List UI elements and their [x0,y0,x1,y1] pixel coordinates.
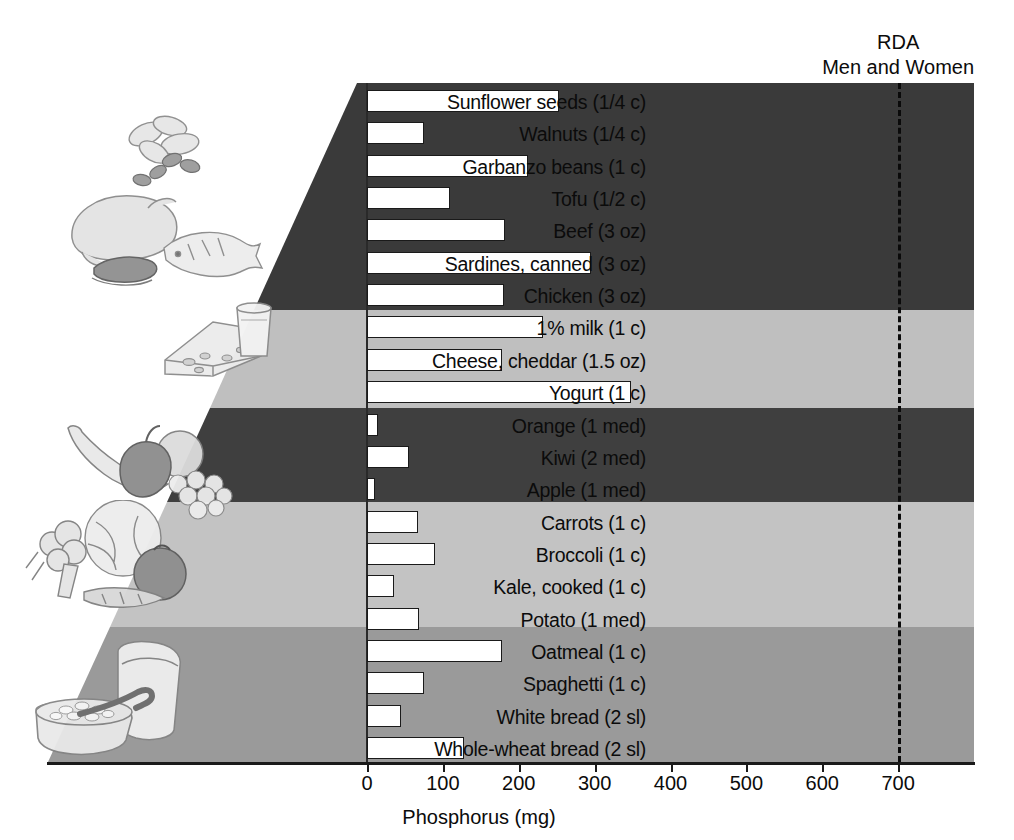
poultry-fish-meat-illustration [52,182,267,287]
bar-kale-cooked-1-c [367,575,394,597]
x-tick-100 [443,762,445,772]
bar-label-3: Tofu (1/2 c) [551,188,646,210]
bar-spaghetti-1-c [367,672,424,694]
bar-beef-3-oz [367,219,505,241]
x-tick-label-300: 300 [578,772,611,795]
vegetables-broccoli-lettuce-tomato-carrot-illustration [18,500,218,625]
x-tick-0 [367,762,369,772]
rda-reference-line [898,83,901,762]
bar-label-7: 1% milk (1 c) [537,317,646,339]
x-tick-400 [671,762,673,772]
x-tick-label-200: 200 [502,772,535,795]
x-tick-500 [746,762,748,772]
bar-label-10: Orange (1 med) [512,415,646,437]
bar-kiwi-2-med [367,446,409,468]
rda-caption: RDA Men and Women [822,30,974,80]
x-tick-label-100: 100 [426,772,459,795]
x-tick-300 [595,762,597,772]
bar-carrots-1-c [367,511,418,533]
x-axis-title: Phosphorus (mg) [0,806,1014,829]
nuts-and-seeds-illustration [108,108,248,193]
x-tick-label-600: 600 [806,772,839,795]
bread-and-oatmeal-bowl-illustration [22,638,222,758]
bar-apple-1-med [367,478,375,500]
bar-tofu-1-2-c [367,187,450,209]
phosphorus-bar-chart: RDA Men and Women Sunflower seeds (1/4 c… [0,0,1014,840]
bar-label-17: Oatmeal (1 c) [531,641,646,663]
bar-label-5: Sardines, canned (3 oz) [445,253,646,275]
bar-white-bread-2-sl [367,705,401,727]
bar-label-6: Chicken (3 oz) [524,285,646,307]
bar-chicken-3-oz [367,284,504,306]
bar-broccoli-1-c [367,543,435,565]
bar-walnuts-1-4-c [367,122,424,144]
x-tick-200 [519,762,521,772]
x-tick-600 [822,762,824,772]
bar-label-0: Sunflower seeds (1/4 c) [447,91,646,113]
bar-label-15: Kale, cooked (1 c) [493,576,646,598]
x-tick-label-700: 700 [881,772,914,795]
bar-label-9: Yogurt (1 c) [549,382,646,404]
bar-label-1: Walnuts (1/4 c) [519,123,646,145]
bar-potato-1-med [367,608,419,630]
bar-label-13: Carrots (1 c) [541,512,646,534]
x-axis-title-text: Phosphorus (mg) [402,806,555,828]
bar-label-2: Garbanzo beans (1 c) [462,156,646,178]
x-tick-label-0: 0 [361,772,372,795]
bar-label-18: Spaghetti (1 c) [523,673,646,695]
rda-caption-line2: Men and Women [822,55,974,80]
x-tick-label-400: 400 [654,772,687,795]
x-tick-700 [898,762,900,772]
axis-baseline-left [47,762,368,765]
bar-label-4: Beef (3 oz) [553,220,646,242]
bar-label-20: Whole-wheat bread (2 sl) [434,738,646,760]
x-tick-label-500: 500 [730,772,763,795]
cheese-and-milk-illustration [155,300,280,385]
rda-caption-line1: RDA [822,30,974,55]
bar-label-16: Potato (1 med) [521,609,646,631]
bar-oatmeal-1-c [367,640,502,662]
bar-label-11: Kiwi (2 med) [541,447,646,469]
bar-orange-1-med [367,414,378,436]
bar-label-19: White bread (2 sl) [497,706,646,728]
bar-1-milk-1-c [367,316,543,338]
bar-label-12: Apple (1 med) [527,479,646,501]
bar-label-14: Broccoli (1 c) [536,544,646,566]
bar-label-8: Cheese, cheddar (1.5 oz) [432,350,646,372]
